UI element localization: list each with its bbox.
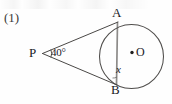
unknown-angle-label-x: x bbox=[116, 64, 121, 75]
item-number-label: (1) bbox=[4, 11, 19, 24]
point-label-p: P bbox=[29, 46, 36, 59]
chord-ab-line bbox=[117, 23, 118, 85]
geometry-diagram bbox=[0, 0, 172, 104]
tangent-line-pb bbox=[43, 54, 118, 86]
center-dot-icon bbox=[130, 51, 133, 54]
point-label-b: B bbox=[111, 83, 120, 96]
point-label-a: A bbox=[112, 6, 121, 19]
figure-page: (1) P 40° A B O x bbox=[0, 0, 172, 104]
center-label-o: O bbox=[136, 46, 145, 58]
angle-measure-label: 40° bbox=[51, 47, 66, 58]
circle-o bbox=[100, 25, 164, 89]
